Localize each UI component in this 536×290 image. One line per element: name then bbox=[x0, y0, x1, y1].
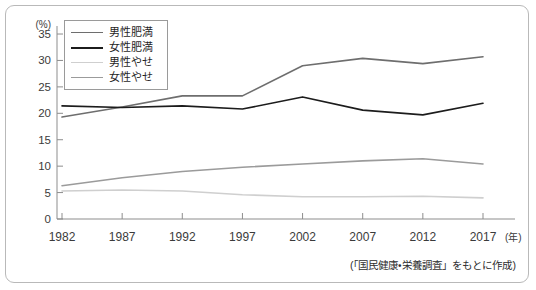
y-tick-label: 20 bbox=[38, 107, 51, 119]
x-tick-label: 2012 bbox=[410, 230, 437, 244]
x-tick-label: 2002 bbox=[289, 230, 316, 244]
y-tick-label: 10 bbox=[38, 160, 51, 172]
legend-swatch-female-underweight bbox=[71, 77, 103, 78]
legend-item-male-underweight: 男性やせ bbox=[71, 55, 162, 70]
legend-label-male-obesity: 男性肥満 bbox=[109, 27, 153, 38]
legend-swatch-male-obesity bbox=[71, 32, 103, 33]
y-tick-label: 15 bbox=[38, 134, 51, 146]
legend-swatch-male-underweight bbox=[71, 62, 103, 63]
x-axis-unit-label: (年) bbox=[505, 231, 522, 243]
series-line-3 bbox=[62, 159, 483, 186]
x-tick-label: 1987 bbox=[109, 230, 136, 244]
source-note: (「国民健康・栄養調査」をもとに作成) bbox=[350, 257, 516, 272]
y-tick-label: 5 bbox=[45, 187, 51, 199]
y-tick-label: 0 bbox=[45, 213, 51, 225]
legend-item-female-underweight: 女性やせ bbox=[71, 70, 162, 85]
y-axis-unit-label: (%) bbox=[35, 19, 51, 30]
chart-figure: 05101520253035(%)19821987199219972002200… bbox=[0, 0, 536, 290]
y-tick-label: 25 bbox=[38, 81, 51, 93]
legend-label-female-obesity: 女性肥満 bbox=[109, 42, 153, 53]
x-tick-label: 2017 bbox=[470, 230, 497, 244]
legend-label-female-underweight: 女性やせ bbox=[109, 72, 153, 83]
legend-swatch-female-obesity bbox=[71, 47, 103, 49]
series-line-2 bbox=[62, 190, 483, 198]
legend-item-female-obesity: 女性肥満 bbox=[71, 40, 162, 55]
chart-legend: 男性肥満 女性肥満 男性やせ 女性やせ bbox=[64, 20, 168, 90]
x-tick-label: 1997 bbox=[229, 230, 256, 244]
legend-item-male-obesity: 男性肥満 bbox=[71, 25, 162, 40]
y-tick-label: 30 bbox=[38, 54, 51, 66]
x-tick-label: 1992 bbox=[169, 230, 196, 244]
legend-label-male-underweight: 男性やせ bbox=[109, 57, 153, 68]
x-tick-label: 1982 bbox=[49, 230, 76, 244]
x-tick-label: 2007 bbox=[349, 230, 376, 244]
